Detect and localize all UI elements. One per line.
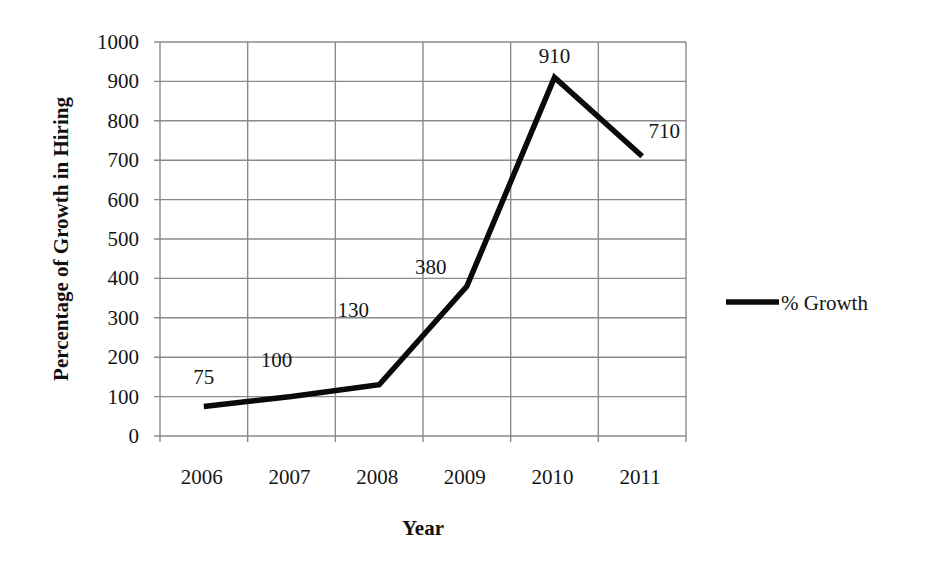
data-labels: 75100130380910710: [193, 44, 680, 389]
x-axis-title: Year: [402, 516, 444, 540]
data-label-2008: 130: [337, 298, 369, 322]
y-tick-900: 900: [108, 69, 140, 93]
y-tick-100: 100: [108, 385, 140, 409]
y-tick-800: 800: [108, 109, 140, 133]
data-label-2006: 75: [193, 365, 214, 389]
x-tick-2009: 2009: [444, 465, 486, 489]
legend-label: % Growth: [781, 291, 868, 315]
legend: % Growth: [726, 291, 868, 315]
y-tick-1000: 1000: [97, 30, 139, 54]
x-tick-2007: 2007: [269, 465, 311, 489]
data-label-2007: 100: [261, 348, 293, 372]
y-tick-300: 300: [108, 306, 140, 330]
x-tick-2006: 2006: [181, 465, 223, 489]
y-axis-tick-labels: 01002003004005006007008009001000: [97, 30, 139, 448]
x-tick-2011: 2011: [620, 465, 661, 489]
line-chart: 01002003004005006007008009001000 2006200…: [0, 0, 928, 561]
data-label-2010: 910: [539, 44, 571, 68]
data-label-2009: 380: [415, 255, 447, 279]
x-tick-2010: 2010: [532, 465, 574, 489]
y-tick-0: 0: [129, 424, 140, 448]
vertical-gridlines: [160, 42, 686, 442]
y-tick-200: 200: [108, 345, 140, 369]
y-tick-700: 700: [108, 148, 140, 172]
y-tick-500: 500: [108, 227, 140, 251]
y-axis-title: Percentage of Growth in Hiring: [49, 97, 73, 381]
y-tick-400: 400: [108, 266, 140, 290]
data-label-2011: 710: [648, 119, 680, 143]
x-axis-tick-labels: 200620072008200920102011: [181, 465, 661, 489]
x-tick-2008: 2008: [356, 465, 398, 489]
horizontal-gridlines: [154, 42, 686, 436]
y-tick-600: 600: [108, 188, 140, 212]
